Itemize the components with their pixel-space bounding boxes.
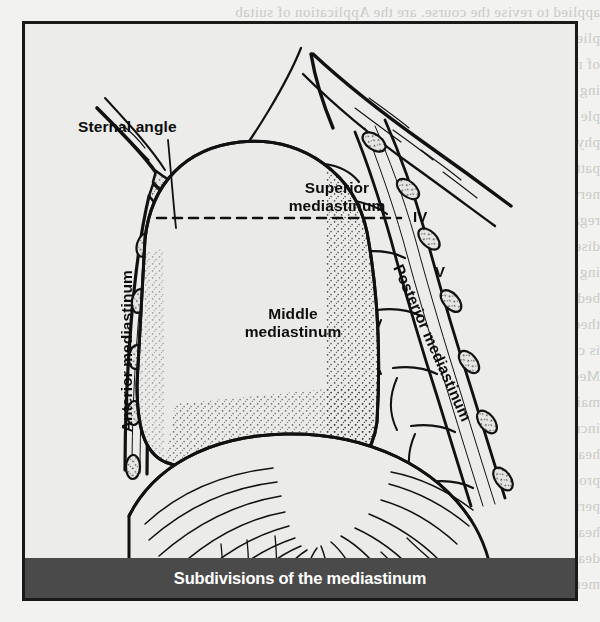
label-superior-mediastinum: Superior mediastinum — [267, 179, 407, 216]
figure-panel: Sternal angle Superior mediastinum Middl… — [22, 21, 578, 601]
bleed-text-line: applied to revise the course. are the Ap… — [0, 4, 600, 21]
label-sternal-angle: Sternal angle — [78, 118, 177, 136]
label-vertebra-four: IV — [413, 208, 427, 226]
label-anterior-mediastinum: Anterior mediastinum — [118, 241, 136, 461]
figure-caption-text: Subdivisions of the mediastinum — [174, 569, 426, 588]
figure-caption-bar: Subdivisions of the mediastinum — [25, 558, 575, 598]
label-middle-mediastinum: Middle mediastinum — [228, 305, 358, 342]
label-vertebra-five: V — [435, 263, 445, 281]
